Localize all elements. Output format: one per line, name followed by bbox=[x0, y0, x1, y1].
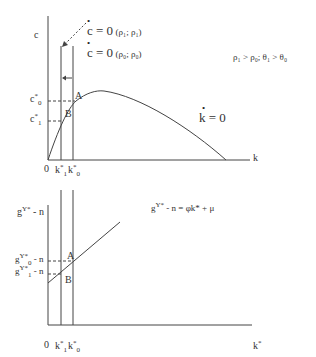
dashed-arrowhead bbox=[62, 41, 68, 47]
bottom-point-a: A bbox=[67, 251, 74, 261]
k-dot-curve-label: k = 0 bbox=[199, 111, 226, 124]
c-dot-new-label: c = 0 (ρ₁; ρ₁) bbox=[87, 24, 142, 37]
shift-arrowhead bbox=[62, 76, 66, 81]
bottom-point-b: B bbox=[65, 275, 72, 285]
bottom-xtick-k0: k*0 bbox=[68, 340, 80, 354]
top-point-a: A bbox=[75, 91, 82, 101]
top-origin-label: 0 bbox=[44, 164, 49, 174]
bottom-xtick-k1: k*1 bbox=[55, 340, 67, 354]
top-point-b: B bbox=[65, 109, 72, 119]
top-ytick-c0: c*0 bbox=[30, 93, 41, 107]
top-x-axis-label: k bbox=[253, 153, 258, 163]
top-ytick-c1: c*1 bbox=[30, 113, 41, 127]
growth-line-label: gY* - n = φk* + μ bbox=[151, 202, 214, 213]
bottom-y-axis-label: gY* - n bbox=[17, 206, 44, 217]
top-xtick-k0: k*0 bbox=[68, 164, 80, 178]
bottom-ytick-g1: gY*1 - n bbox=[15, 265, 44, 279]
bottom-origin-label: 0 bbox=[44, 340, 49, 350]
top-xtick-k1: k*1 bbox=[55, 164, 67, 178]
bottom-x-axis-label: k* bbox=[253, 340, 262, 351]
parameter-condition: ρ₁ > ρ₀; θ₁ > θ₀ bbox=[233, 53, 287, 62]
top-y-axis-label: c bbox=[34, 30, 38, 40]
c-dot-old-label: c = 0 (ρ₀; ρ₀) bbox=[87, 46, 142, 59]
shift-dashed-arrow bbox=[63, 23, 86, 46]
